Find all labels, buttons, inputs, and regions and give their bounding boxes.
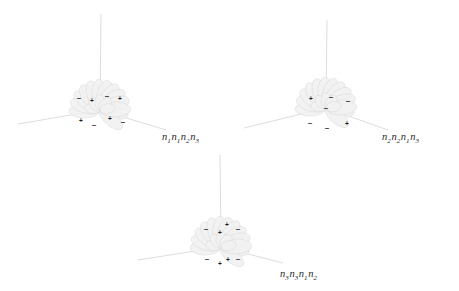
lobe-sign-plus: + bbox=[218, 230, 222, 237]
label-symbol: n3 bbox=[280, 268, 289, 279]
label-symbol: n1 bbox=[299, 268, 308, 279]
label-symbol: n2 bbox=[382, 131, 391, 142]
label-subscript: 3 bbox=[195, 137, 199, 145]
label-subscript: 1 bbox=[304, 274, 308, 282]
label-subscript: 1 bbox=[406, 137, 410, 145]
lobe-sign-minus: – bbox=[77, 94, 81, 102]
lobe-sign-plus: + bbox=[90, 98, 94, 105]
lobe-sign-plus: + bbox=[309, 96, 313, 103]
label-subscript: 3 bbox=[285, 274, 289, 282]
label-symbol: n2 bbox=[308, 268, 317, 279]
label-symbol: n2 bbox=[181, 131, 190, 142]
lobe-sign-minus: – bbox=[329, 93, 333, 101]
lobe-sign-plus: + bbox=[225, 222, 229, 229]
lobe-sign-minus: – bbox=[92, 121, 96, 129]
lobe-sign-minus: – bbox=[324, 104, 328, 112]
label-symbol: n2 bbox=[391, 131, 400, 142]
lobe-sign-minus: – bbox=[121, 118, 125, 126]
orbital-plot-2: +–––––+ bbox=[230, 0, 459, 150]
label-symbol: n1 bbox=[171, 131, 180, 142]
lobe-sign-minus: – bbox=[204, 225, 208, 233]
lobe-sign-minus: – bbox=[236, 225, 240, 233]
panel-label-3: n3n3n1n2 bbox=[280, 268, 318, 279]
orbital-plot-1: –+–++–+– bbox=[0, 0, 230, 150]
lobe-sign-minus: – bbox=[236, 255, 240, 263]
lobe-sign-plus: + bbox=[345, 121, 349, 128]
lobe-sign-plus: + bbox=[226, 257, 230, 264]
lobe-sign-plus: + bbox=[118, 96, 122, 103]
lobe-sign-minus: – bbox=[105, 92, 109, 100]
label-subscript: 1 bbox=[167, 137, 171, 145]
label-subscript: 1 bbox=[177, 137, 181, 145]
label-subscript: 3 bbox=[295, 274, 299, 282]
lobe-sign-minus: – bbox=[205, 255, 209, 263]
label-symbol: n1 bbox=[162, 131, 171, 142]
lobe-sign-minus: – bbox=[325, 124, 329, 132]
lobe-sign-plus: + bbox=[108, 116, 112, 123]
orbital-plot-graphic bbox=[0, 0, 240, 160]
label-symbol: n3 bbox=[289, 268, 298, 279]
label-subscript: 2 bbox=[313, 274, 317, 282]
figure-canvas: –+–++–+–n1n1n2n3+–––––+n2n2n1n3–++––++–n… bbox=[0, 0, 459, 291]
label-symbol: n3 bbox=[410, 131, 419, 142]
lobe-sign-plus: + bbox=[218, 261, 222, 268]
label-subscript: 3 bbox=[415, 137, 419, 145]
label-subscript: 2 bbox=[397, 137, 401, 145]
orbital-plot-graphic bbox=[120, 150, 360, 291]
label-symbol: n1 bbox=[401, 131, 410, 142]
label-subscript: 2 bbox=[186, 137, 190, 145]
orbital-plot-graphic bbox=[230, 0, 459, 160]
lobe-sign-minus: – bbox=[346, 97, 350, 105]
label-symbol: n3 bbox=[190, 131, 199, 142]
lobe-sign-minus: – bbox=[308, 119, 312, 127]
lobe-sign-plus: + bbox=[79, 118, 83, 125]
panel-label-1: n1n1n2n3 bbox=[162, 131, 200, 142]
label-subscript: 2 bbox=[387, 137, 391, 145]
panel-label-2: n2n2n1n3 bbox=[382, 131, 420, 142]
